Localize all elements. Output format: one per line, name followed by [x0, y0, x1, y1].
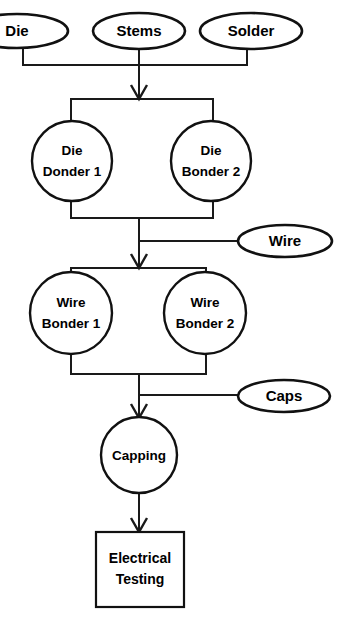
node-die-bonder-1[interactable]: Die Donder 1 — [32, 121, 112, 201]
wire-label: Wire — [269, 232, 301, 249]
node-die[interactable]: Die — [0, 14, 68, 48]
stems-label: Stems — [116, 22, 161, 39]
die-bonder-1-label-line1: Die — [61, 143, 83, 158]
connector-group-capping-inputs — [131, 374, 238, 418]
node-wire-material[interactable]: Wire — [238, 225, 332, 257]
die-bonder-1-label-line2: Donder 1 — [43, 164, 102, 179]
solder-label: Solder — [228, 22, 275, 39]
node-capping[interactable]: Capping — [101, 417, 177, 493]
connector-group-testing-input — [131, 492, 147, 532]
wire-bonder-1-label-line1: Wire — [56, 295, 86, 310]
die-bonder-2-circle[interactable] — [171, 121, 251, 201]
die-bonder-2-label-line2: Bonder 2 — [182, 164, 241, 179]
capping-label: Capping — [112, 448, 166, 463]
die-bonder-1-circle[interactable] — [32, 121, 112, 201]
node-wire-bonder-2[interactable]: Wire Bonder 2 — [164, 272, 246, 354]
node-die-bonder-2[interactable]: Die Bonder 2 — [171, 121, 251, 201]
flowchart-svg: Die Stems Solder Wire Caps Die Donder 1 … — [0, 0, 342, 621]
die-bonder-2-label-line1: Die — [200, 143, 222, 158]
wire-bonder-2-label-line2: Bonder 2 — [176, 316, 235, 331]
wire-bonder-1-circle[interactable] — [30, 272, 112, 354]
die-label: Die — [5, 22, 28, 39]
node-caps-material[interactable]: Caps — [238, 380, 330, 412]
electrical-testing-label-line1: Electrical — [109, 550, 171, 566]
node-wire-bonder-1[interactable]: Wire Bonder 1 — [30, 272, 112, 354]
wire-bonder-1-label-line2: Bonder 1 — [42, 316, 101, 331]
connector-die-to-bar — [23, 48, 247, 65]
electrical-testing-rect[interactable] — [96, 532, 184, 607]
connector-group-wire-bond-inputs — [131, 218, 238, 268]
electrical-testing-label-line2: Testing — [116, 571, 165, 587]
wire-bonder-2-label-line1: Wire — [190, 295, 220, 310]
node-electrical-testing[interactable]: Electrical Testing — [96, 532, 184, 607]
flowchart-canvas: Die Stems Solder Wire Caps Die Donder 1 … — [0, 0, 342, 621]
node-solder[interactable]: Solder — [200, 13, 302, 49]
node-stems[interactable]: Stems — [93, 13, 185, 49]
wire-bonder-2-circle[interactable] — [164, 272, 246, 354]
connector-group-die-bond-inputs — [23, 48, 247, 99]
caps-label: Caps — [266, 387, 303, 404]
